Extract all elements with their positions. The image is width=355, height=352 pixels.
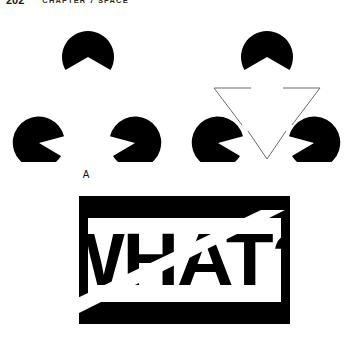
pacman-inducer-bottom-right xyxy=(110,117,161,162)
what-illusory-occluder-illustration: WHAT? xyxy=(79,196,290,324)
page-number: 202 xyxy=(6,0,24,6)
figure-panel-a: A xyxy=(0,12,175,162)
outline-apex-right xyxy=(267,131,286,159)
running-head: 202 CHAPTER 7 SPACE xyxy=(0,0,355,7)
figure-panel-c: WHAT? C xyxy=(79,196,290,324)
kanizsa-triangle-with-outline-illustration xyxy=(178,12,355,162)
panel-label-a: A xyxy=(76,169,96,180)
figure-panel-b: B xyxy=(178,12,355,162)
pacman-inducer-bottom-left xyxy=(13,117,64,162)
outline-apex-left xyxy=(248,131,267,159)
pacman-inducer-bottom-right xyxy=(289,117,340,162)
chapter-label: CHAPTER 7 SPACE xyxy=(42,0,128,5)
pacman-inducer-top xyxy=(62,31,114,70)
pacman-inducer-top xyxy=(241,31,293,70)
pacman-inducer-bottom-left xyxy=(192,117,243,162)
kanizsa-triangle-illustration xyxy=(0,12,175,162)
